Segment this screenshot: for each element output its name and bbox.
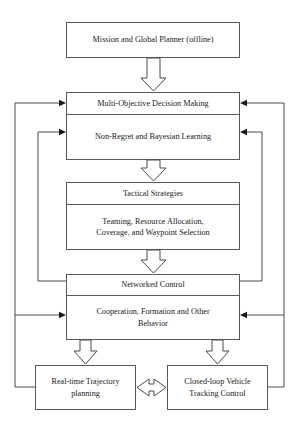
feedback-left-inner-line [38, 132, 66, 281]
block-arrow-trajectory-tracking-bidirectional [137, 379, 166, 396]
box-decision-making: Multi-Objective Decision Making [66, 92, 240, 115]
box-trajectory-planning-label: Real-time Trajectory planning [52, 376, 120, 398]
box-cooperation-label: Cooperation, Formation and Other Behavio… [96, 306, 209, 328]
box-trajectory-planning: Real-time Trajectory planning [35, 365, 136, 410]
box-networked-control: Networked Control [66, 274, 240, 296]
feedback-left-outer-line [15, 103, 61, 387]
arrowhead-right-outer [240, 100, 247, 106]
box-mission-planner-label: Mission and Global Planner (offline) [93, 34, 214, 45]
box-networked-control-label: Networked Control [121, 279, 184, 290]
arrowhead-right-inner [240, 129, 247, 135]
block-arrow-mission-to-decision [141, 58, 166, 91]
arrowhead-left-inner [59, 129, 66, 135]
block-arrow-cooperation-to-tracking [206, 340, 229, 364]
arrowhead-left-outer [59, 100, 66, 106]
block-arrow-cooperation-to-trajectory [74, 340, 97, 364]
box-cooperation: Cooperation, Formation and Other Behavio… [66, 296, 240, 340]
box-tracking-control: Closed-loop Vehicle Tracking Control [167, 365, 268, 410]
box-tracking-control-label: Closed-loop Vehicle Tracking Control [184, 376, 250, 398]
box-mission-planner: Mission and Global Planner (offline) [66, 22, 240, 58]
box-learning: Non-Regret and Bayesian Learning [66, 115, 240, 160]
feedback-right-inner-line [240, 132, 262, 281]
box-tactical-detail: Teaming, Resource Allocation, Coverage, … [66, 205, 240, 250]
box-learning-label: Non-Regret and Bayesian Learning [95, 131, 211, 142]
box-tactical-strategies-label: Tactical Strategies [123, 188, 183, 199]
feedback-right-outer-line [245, 103, 284, 387]
box-tactical-detail-label: Teaming, Resource Allocation, Coverage, … [96, 216, 209, 238]
architecture-diagram: Mission and Global Planner (offline) Mul… [0, 0, 299, 430]
arrowhead-left-cooperation [59, 312, 66, 318]
box-tactical-strategies: Tactical Strategies [66, 182, 240, 205]
block-arrow-learning-to-tactical [141, 160, 166, 181]
box-decision-making-label: Multi-Objective Decision Making [97, 98, 208, 109]
block-arrow-tactical-to-networked [141, 250, 166, 273]
arrowhead-right-cooperation [240, 312, 247, 318]
